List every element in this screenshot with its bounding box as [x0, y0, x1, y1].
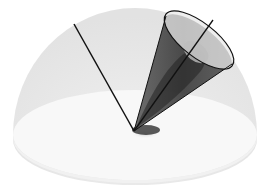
diagram-canvas — [0, 0, 269, 192]
hemisphere-diagram — [0, 0, 269, 192]
